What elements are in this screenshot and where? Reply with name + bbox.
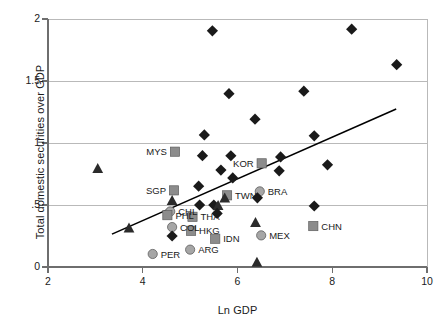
point-label-arg: ARG [198, 244, 219, 255]
point-label-hkg: HKG [199, 225, 220, 236]
data-point-diamond [223, 88, 234, 99]
point-label-phl: PHL [175, 210, 193, 221]
y-tick-label: 1 [8, 136, 40, 148]
x-axis-title-wrapper: Ln GDP [48, 300, 427, 318]
data-point-diamond [207, 25, 218, 36]
point-label-twn: TWN [235, 190, 257, 201]
point-label-mex: MEX [269, 230, 290, 241]
data-point-diamond [309, 200, 320, 211]
x-axis-title: Ln GDP [218, 304, 258, 316]
y-tick-label: 2 [8, 12, 40, 24]
y-tick-label: .5 [8, 198, 40, 210]
y-axis-title: Total domestic securities over GDP [34, 65, 46, 240]
data-point-diamond [309, 130, 320, 141]
data-point-diamond [199, 129, 210, 140]
data-point-diamond [298, 86, 309, 97]
point-label-col: COL [180, 222, 200, 233]
gridlines [48, 19, 427, 267]
data-markers [92, 24, 402, 267]
data-point-diamond [249, 114, 260, 125]
data-point-col [168, 222, 177, 231]
point-label-bra: BRA [268, 186, 288, 197]
data-point-triangle [252, 257, 263, 267]
x-tick-label: 2 [28, 275, 68, 287]
x-axis-ticks [48, 267, 427, 273]
data-point-arg [186, 245, 195, 254]
data-point-diamond [274, 165, 285, 176]
data-point-mex [257, 231, 266, 240]
x-tick-label: 10 [407, 275, 445, 287]
data-point-triangle [92, 163, 103, 173]
data-point-triangle [167, 195, 178, 205]
x-tick-label: 4 [123, 275, 163, 287]
point-label-tha: THA [200, 211, 220, 222]
y-axis-title-wrapper: Total domestic securities over GDP [30, 27, 48, 277]
point-label-mys: MYS [146, 146, 167, 157]
data-point-diamond [167, 230, 178, 241]
data-point-diamond [193, 181, 204, 192]
scatter-plot-figure: MYSKORSGPBRATWNCHLPHLTHACHNCOLHKGMEXIDNA… [0, 0, 445, 326]
data-point-mys [170, 147, 179, 156]
point-label-per: PER [161, 249, 181, 260]
point-label-chn: CHN [321, 221, 342, 232]
data-point-diamond [346, 24, 357, 35]
data-point-diamond [391, 59, 402, 70]
point-label-idn: IDN [223, 233, 240, 244]
data-point-diamond [215, 164, 226, 175]
data-point-triangle [250, 217, 261, 227]
y-tick-label: 1.5 [8, 74, 40, 86]
x-tick-label: 8 [312, 275, 352, 287]
data-point-diamond [197, 150, 208, 161]
data-point-chn [309, 221, 318, 230]
point-label-sgp: SGP [146, 185, 166, 196]
data-point-diamond [322, 159, 333, 170]
x-tick-label: 6 [218, 275, 258, 287]
y-tick-label: 0 [8, 260, 40, 272]
data-point-sgp [169, 186, 178, 195]
data-point-phl [163, 211, 172, 220]
trendline [112, 109, 396, 234]
data-point-per [148, 249, 157, 258]
data-point-kor [257, 159, 266, 168]
point-label-kor: KOR [233, 158, 254, 169]
